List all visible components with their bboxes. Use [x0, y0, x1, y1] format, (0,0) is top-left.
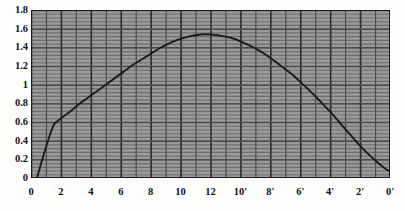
x-axis: 02468101210'8'6'4'2'0'	[0, 181, 405, 203]
y-axis-tick-label: 1.4	[15, 42, 28, 53]
x-axis-tick-label: 10	[175, 187, 186, 198]
y-axis-tick-label: 1	[23, 80, 28, 91]
y-axis-tick-label: 1.6	[15, 24, 28, 35]
y-axis-tick-label: 0.2	[15, 154, 28, 165]
x-axis-tick-label: 0	[28, 187, 33, 198]
x-axis-tick-label: 6'	[296, 187, 304, 198]
x-axis-tick-label: 6	[118, 187, 123, 198]
y-axis-tick-label: 1.2	[15, 61, 28, 72]
x-axis-tick-label: 12	[205, 187, 216, 198]
x-axis-tick-label: 2	[58, 187, 63, 198]
x-axis-tick-label: 4'	[326, 187, 334, 198]
y-axis-tick-label: 0.6	[15, 117, 28, 128]
chart-container: 00.20.40.60.811.21.41.61.8 02468101210'8…	[0, 0, 405, 211]
x-axis-tick-label: 0'	[386, 187, 394, 198]
x-axis-tick-label: 8'	[266, 187, 274, 198]
y-axis-tick-label: 1.8	[15, 5, 28, 16]
x-axis-tick-label: 8	[148, 187, 153, 198]
curve-path	[37, 34, 390, 178]
y-axis-tick-label: 0.8	[15, 98, 28, 109]
y-axis-tick-label: 0.4	[15, 136, 28, 147]
x-axis-tick-label: 4	[88, 187, 93, 198]
data-curve	[31, 10, 390, 178]
x-axis-tick-label: 2'	[356, 187, 364, 198]
plot-area	[31, 10, 390, 178]
x-axis-tick-label: 10'	[234, 187, 247, 198]
y-axis: 00.20.40.60.811.21.41.61.8	[0, 0, 28, 188]
